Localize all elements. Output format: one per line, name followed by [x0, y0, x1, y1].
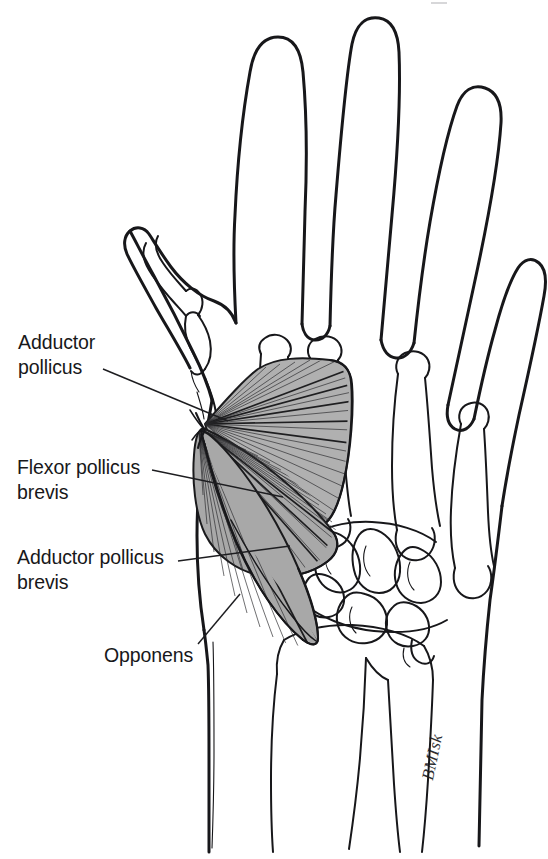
- label-flexor-pollicus-brevis: Flexor pollicus brevis: [17, 455, 140, 505]
- label-adductor-pollicus: Adductor pollicus: [18, 330, 95, 380]
- label-adductor-pollicus-brevis: Adductor pollicus brevis: [17, 545, 164, 595]
- leader-opponens: [198, 594, 240, 644]
- label-opponens: Opponens: [104, 643, 193, 668]
- anatomy-figure: Adductor pollicus Flexor pollicus brevis…: [0, 0, 548, 859]
- forearm-bones: [271, 625, 434, 852]
- hand-anatomy-illustration: [0, 0, 548, 859]
